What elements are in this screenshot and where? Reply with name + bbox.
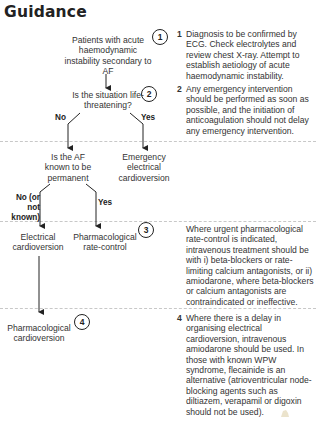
- note-text: Any emergency intervention should be per…: [186, 84, 309, 136]
- yes-label: Yes: [98, 198, 112, 208]
- note-1: 1 Diagnosis to be confirmed by ECG. Chec…: [186, 29, 314, 81]
- electrical-cardioversion-node: Electrical cardioversion: [6, 232, 70, 253]
- note-number: 2: [177, 84, 182, 94]
- marker-3-icon: 3: [138, 222, 154, 238]
- note-number: 1: [177, 29, 182, 39]
- note-4: 4 Where there is a delay in organising e…: [186, 313, 314, 417]
- emergency-cardioversion-node: Emergency electrical cardioversion: [112, 152, 176, 183]
- rate-control-node: Pharmacological rate-control: [70, 232, 140, 253]
- start-node: Patients with acute haemodynamic instabi…: [64, 35, 152, 77]
- note-3: Where urgent pharmacological rate-contro…: [186, 224, 314, 307]
- marker-4-icon: 4: [74, 314, 90, 330]
- pharmacological-cardioversion-node: Pharmacological cardioversion: [4, 323, 74, 344]
- note-number: 4: [177, 313, 182, 323]
- note-text: Where there is a delay in organising ele…: [186, 313, 312, 417]
- note-text: Diagnosis to be confirmed by ECG. Check …: [186, 29, 300, 81]
- no-or-not-known-label: No (or not known): [4, 193, 40, 223]
- yes-label: Yes: [141, 113, 155, 123]
- marker-1-icon: 1: [152, 29, 168, 45]
- note-text: Where urgent pharmacological rate-contro…: [186, 224, 314, 307]
- note-2: 2 Any emergency intervention should be p…: [186, 84, 314, 136]
- permanent-question: Is the AF known to be permanent: [38, 152, 98, 183]
- marker-2-icon: 2: [141, 86, 157, 102]
- watermark-icon: [280, 404, 290, 413]
- no-label: No: [55, 113, 66, 123]
